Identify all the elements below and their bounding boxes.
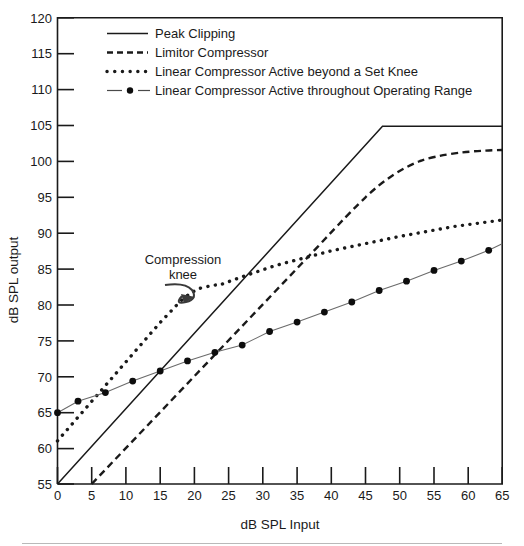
y-tick-label: 105 [30, 118, 52, 133]
y-tick-label: 55 [38, 477, 52, 492]
x-tick-label: 20 [187, 488, 201, 503]
y-axis-title: dB SPL output [6, 236, 21, 323]
x-tick-label: 15 [153, 488, 167, 503]
y-axis-tick-labels: 120 115 110 105 100 95 90 85 80 75 70 65… [30, 11, 52, 492]
x-axis-title: dB SPL Input [240, 517, 319, 532]
x-tick-label: 25 [221, 488, 235, 503]
y-tick-label: 120 [30, 11, 52, 26]
y-tick-label: 100 [30, 154, 52, 169]
y-tick-label: 60 [38, 441, 52, 456]
series-peak-clipping [58, 126, 503, 484]
x-tick-label: 40 [324, 488, 338, 503]
x-tick-label: 10 [119, 488, 133, 503]
x-tick-label: 30 [256, 488, 270, 503]
y-tick-label: 110 [31, 82, 52, 97]
y-tick-label: 85 [38, 262, 52, 277]
x-tick-label: 45 [358, 488, 372, 503]
y-tick-label: 95 [38, 190, 52, 205]
annotation-arrow-icon [165, 284, 194, 303]
y-tick-label: 80 [38, 298, 52, 313]
y-tick-label: 75 [38, 334, 52, 349]
chart-legend: Peak Clipping Limitor Compressor Linear … [107, 26, 472, 98]
x-tick-label: 65 [495, 488, 509, 503]
annotation-line-1: Compression [145, 252, 222, 267]
annotation-compression-knee: Compression knee [145, 252, 222, 303]
x-tick-label: 60 [461, 488, 475, 503]
x-tick-label: 55 [427, 488, 441, 503]
y-tick-label: 115 [31, 46, 52, 61]
x-axis-ticks [58, 467, 503, 484]
x-tick-label: 50 [392, 488, 406, 503]
y-tick-label: 65 [38, 405, 52, 420]
y-tick-label: 90 [38, 226, 52, 241]
legend-swatch-dashdot-marker [127, 87, 133, 93]
legend-label-peak-clipping: Peak Clipping [155, 26, 235, 41]
annotation-line-2: knee [169, 267, 197, 282]
figure-container: 120 115 110 105 100 95 90 85 80 75 70 65… [0, 0, 524, 546]
legend-label-linear-compressor-operating-range: Linear Compressor Active throughout Oper… [155, 83, 472, 98]
series-linear-compressor-set-knee [58, 220, 503, 441]
legend-label-limitor-compressor: Limitor Compressor [155, 45, 269, 60]
x-tick-label: 35 [290, 488, 304, 503]
compression-curves-chart: 120 115 110 105 100 95 90 85 80 75 70 65… [0, 0, 524, 546]
series-limitor-compressor [92, 150, 503, 484]
y-tick-label: 70 [38, 370, 52, 385]
x-tick-label: 5 [88, 488, 95, 503]
x-axis-tick-labels: 0 5 10 15 20 25 30 35 40 45 50 55 60 65 [54, 488, 510, 503]
legend-label-linear-compressor-set-knee: Linear Compressor Active beyond a Set Kn… [155, 64, 418, 79]
series-linear-compressor-operating-range-markers [54, 247, 492, 416]
x-tick-label: 0 [54, 488, 61, 503]
